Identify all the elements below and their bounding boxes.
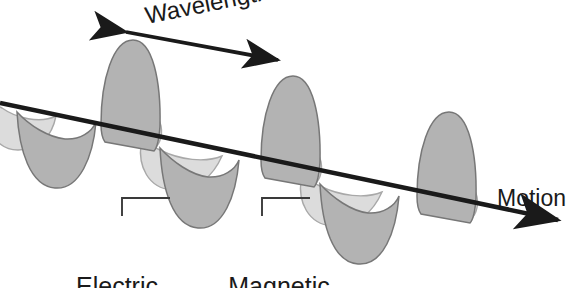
electric-field-label: Electric field [58,219,176,288]
electric-lobe-crest-3 [417,112,476,223]
magnetic-field-label-line1: Magnetic [214,273,344,288]
electric-lobe-trough-1 [17,112,96,188]
diagram-canvas: Wavelength Motion Electric field Magneti… [0,0,573,288]
electric-field-label-line1: Electric [58,273,176,288]
magnetic-field-label: Magnetic field [214,219,344,288]
electric-field-leader [122,198,170,216]
motion-label: Motion [497,186,566,211]
